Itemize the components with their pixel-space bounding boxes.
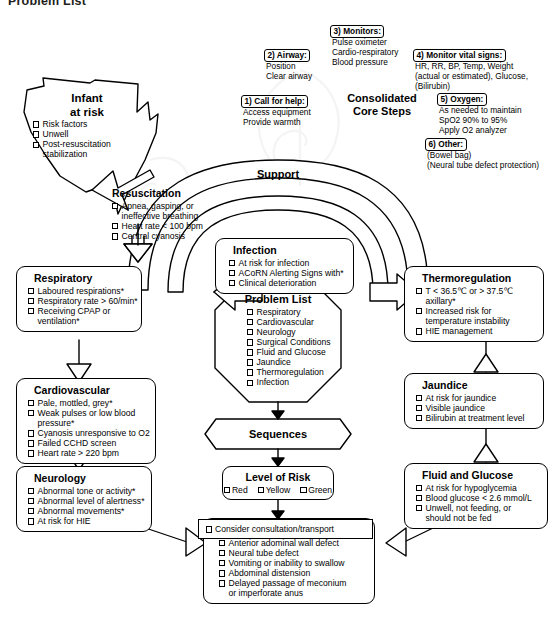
core-step-4[interactable]: 4) Monitor vital signs: HR, RR, BP, Temp… xyxy=(413,44,528,92)
thermoregulation-node[interactable]: Thermoregulation T < 36.5℃ or > 37.5℃ ax… xyxy=(404,266,544,342)
cardiovascular-title: Cardiovascular xyxy=(34,384,148,396)
checklist-item[interactable]: Neurology xyxy=(247,327,341,337)
checklist-item[interactable]: At risk for jaundice xyxy=(416,393,536,403)
core-step-1[interactable]: 1) Call for help: Access equipment Provi… xyxy=(241,90,311,128)
checklist-item[interactable]: Neural tube defect xyxy=(219,548,367,558)
checklist-item[interactable]: Abdominal distension xyxy=(219,568,367,578)
checklist-item[interactable]: Receiving CPAP or xyxy=(28,306,134,316)
respiratory-title: Respiratory xyxy=(34,272,134,284)
checklist-item[interactable]: At risk for hypoglycemia xyxy=(416,483,540,493)
surgical-conditions-checklist: Anterior adominal wall defect Neural tub… xyxy=(219,538,367,599)
checklist-item[interactable]: Failed CCHD screen xyxy=(28,438,148,448)
checklist-item[interactable]: Pale, mottled, grey* xyxy=(28,398,148,408)
checklist-item[interactable]: Laboured respirations* xyxy=(28,286,134,296)
level-of-risk-node[interactable]: Level of Risk Red Yellow Green xyxy=(222,466,334,500)
core-step-2-label: 2) Airway: xyxy=(264,49,310,62)
cardiovascular-checklist: Pale, mottled, grey* Weak pulses or low … xyxy=(28,398,148,459)
core-steps-title-line2: Core Steps xyxy=(322,105,442,118)
core-step-6[interactable]: 6) Other: (Bowel bag) (Neural tube defec… xyxy=(425,133,539,171)
consultation-transport-node[interactable]: Consider consultation/transport xyxy=(198,519,373,539)
neurology-node[interactable]: Neurology Abnormal tone or activity* Abn… xyxy=(16,466,152,532)
infection-title: Infection xyxy=(233,244,346,256)
infant-at-risk-title-line2: at risk xyxy=(33,106,141,119)
page-title: Problem List xyxy=(8,0,86,8)
resuscitation-checklist: Apnea, gasping, or ineffective breathing… xyxy=(112,201,240,241)
core-step-5[interactable]: 5) Oxygen: As needed to maintain SpO2 90… xyxy=(437,88,522,136)
checklist-item[interactable]: Weak pulses or low blood xyxy=(28,408,148,418)
checklist-item[interactable]: Jaundice xyxy=(247,357,341,367)
consolidated-core-steps-title: Consolidated Core Steps xyxy=(322,92,442,117)
problem-list-node[interactable]: Problem List Respiratory Cardiovascular … xyxy=(215,276,341,402)
checklist-item[interactable]: At risk for infection xyxy=(229,258,346,268)
checklist-item[interactable]: Delayed passage of meconium xyxy=(219,578,367,588)
respiratory-node[interactable]: Respiratory Laboured respirations* Respi… xyxy=(16,266,142,332)
checklist-item[interactable]: Bilirubin at treatment level xyxy=(416,413,536,423)
checklist-item[interactable]: Heart rate > 220 bpm xyxy=(28,448,148,458)
thermoregulation-title: Thermoregulation xyxy=(422,272,536,284)
checklist-item[interactable]: Vomiting or inability to swallow xyxy=(219,558,367,568)
checklist-item[interactable]: Cardiovascular xyxy=(247,317,341,327)
level-of-risk-title: Level of Risk xyxy=(228,471,328,483)
checklist-item[interactable]: Thermoregulation xyxy=(247,367,341,377)
checklist-item[interactable]: Abnormal movements* xyxy=(28,506,144,516)
checklist-item[interactable]: Abnormal tone or activity* xyxy=(28,486,144,496)
sequences-label: Sequences xyxy=(205,419,351,449)
core-step-3[interactable]: 3) Monitors: Pulse oximeter Cardio-respi… xyxy=(330,20,398,68)
cardiovascular-node[interactable]: Cardiovascular Pale, mottled, grey* Weak… xyxy=(16,378,156,464)
core-step-3-label: 3) Monitors: xyxy=(330,25,384,38)
checklist-item[interactable]: Infection xyxy=(247,377,341,387)
checklist-item[interactable]: Heart rate < 100 bpm xyxy=(112,221,240,231)
fluid-and-glucose-title: Fluid and Glucose xyxy=(422,469,540,481)
risk-option-green[interactable]: Green xyxy=(300,485,332,495)
sequences-node[interactable]: Sequences xyxy=(205,419,351,449)
infant-at-risk-node[interactable]: Infant at risk Risk factors Unwell Post-… xyxy=(33,92,141,159)
checklist-item[interactable]: Apnea, gasping, or xyxy=(112,201,240,211)
checklist-item[interactable]: Blood glucose < 2.6 mmol/L xyxy=(416,493,540,503)
jaundice-checklist: At risk for jaundice Visible jaundice Bi… xyxy=(416,393,536,423)
checklist-item-continuation: ventilation* xyxy=(28,316,134,326)
checklist-item-continuation: temperature instability xyxy=(416,316,536,326)
checklist-item-continuation: stabilization xyxy=(33,149,141,159)
support-arc-label: Support xyxy=(228,168,328,180)
resuscitation-node[interactable]: Resuscitation Apnea, gasping, or ineffec… xyxy=(108,186,240,241)
checklist-item[interactable]: Post-resuscitation xyxy=(33,139,141,149)
checklist-item[interactable]: Risk factors xyxy=(33,119,141,129)
checklist-item[interactable]: T < 36.5℃ or > 37.5℃ xyxy=(416,286,536,296)
jaundice-title: Jaundice xyxy=(422,379,536,391)
checklist-item[interactable]: Respiratory xyxy=(247,307,341,317)
infant-at-risk-title-line1: Infant xyxy=(33,92,141,105)
checklist-item[interactable]: Unwell xyxy=(33,129,141,139)
checklist-item[interactable]: Anterior adominal wall defect xyxy=(219,538,367,548)
checklist-item-continuation: should not be fed xyxy=(416,513,540,523)
fluid-and-glucose-node[interactable]: Fluid and Glucose At risk for hypoglycem… xyxy=(404,463,548,529)
core-step-6-line-2: (Neural tube defect protection) xyxy=(425,161,539,171)
fluid-and-glucose-checklist: At risk for hypoglycemia Blood glucose <… xyxy=(416,483,540,523)
checklist-item[interactable]: Unwell, not feeding, or xyxy=(416,503,540,513)
infant-at-risk-checklist: Risk factors Unwell Post-resuscitation s… xyxy=(33,119,141,159)
checklist-item[interactable]: At risk for HIE xyxy=(28,516,144,526)
checklist-item[interactable]: Increased risk for xyxy=(416,306,536,316)
core-step-1-line-2: Provide warmth xyxy=(241,118,311,128)
checklist-item[interactable]: Respiratory rate > 60/min* xyxy=(28,296,134,306)
neurology-checklist: Abnormal tone or activity* Abnormal leve… xyxy=(28,486,144,526)
jaundice-node[interactable]: Jaundice At risk for jaundice Visible ja… xyxy=(404,373,544,429)
checklist-item[interactable]: Cyanosis unresponsive to O2 xyxy=(28,428,148,438)
checklist-item[interactable]: Visible jaundice xyxy=(416,403,536,413)
risk-option-yellow[interactable]: Yellow xyxy=(258,485,291,495)
core-step-4-label: 4) Monitor vital signs: xyxy=(413,49,506,62)
checklist-item[interactable]: Abnormal level of alertness* xyxy=(28,496,144,506)
core-step-6-label: 6) Other: xyxy=(425,138,467,151)
problem-list-title: Problem List xyxy=(215,293,341,305)
resuscitation-title: Resuscitation xyxy=(112,187,240,199)
checklist-item[interactable]: Surgical Conditions xyxy=(247,337,341,347)
risk-option-red[interactable]: Red xyxy=(224,485,248,495)
neurology-title: Neurology xyxy=(34,472,144,484)
checklist-item-continuation: pressure* xyxy=(28,418,148,428)
checklist-item-continuation: or imperforate anus xyxy=(219,588,367,598)
core-step-2[interactable]: 2) Airway: Position Clear airway xyxy=(264,44,312,82)
core-step-3-line-3: Blood pressure xyxy=(330,58,398,68)
consultation-transport-label[interactable]: Consider consultation/transport xyxy=(205,524,366,534)
checklist-item-continuation: axillary* xyxy=(416,296,536,306)
checklist-item[interactable]: Fluid and Glucose xyxy=(247,347,341,357)
checklist-item[interactable]: HIE management xyxy=(416,326,536,336)
